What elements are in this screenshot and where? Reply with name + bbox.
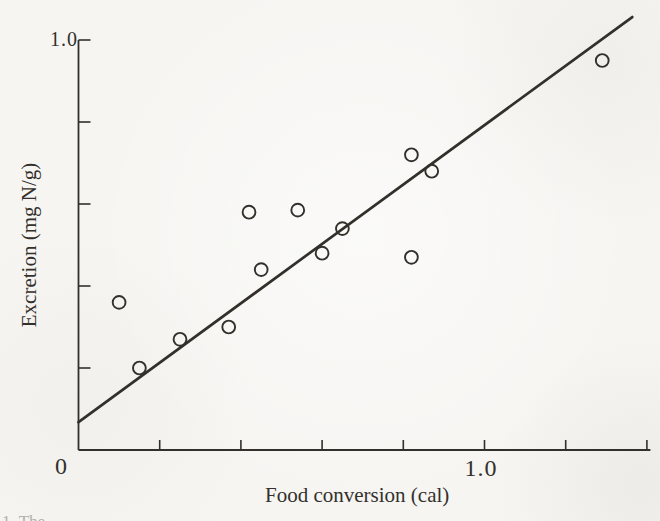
data-point (222, 321, 235, 334)
x-axis-tick-label-0: 0 (46, 453, 76, 479)
data-point (243, 206, 256, 219)
scanned-figure-page: 1.0 0 1.0 Food conversion (cal) Excretio… (0, 0, 660, 521)
data-point (316, 247, 329, 260)
data-point (596, 54, 609, 67)
data-point (113, 296, 126, 309)
data-point (405, 148, 418, 161)
scatter-plot-canvas (0, 0, 660, 521)
y-axis-tick-label-1.0: 1.0 (34, 28, 78, 50)
data-point (405, 251, 418, 264)
clipped-caption-fragment: 1. The (2, 513, 45, 521)
data-point (291, 204, 304, 217)
data-point (174, 333, 187, 346)
regression-line (79, 17, 633, 422)
y-axis-title: Excretion (mg N/g) (18, 163, 41, 327)
data-point (425, 165, 438, 178)
data-point (133, 362, 146, 375)
data-point (255, 263, 268, 276)
x-axis-tick-label-1.0: 1.0 (456, 455, 506, 481)
x-axis-title: Food conversion (cal) (265, 484, 449, 507)
